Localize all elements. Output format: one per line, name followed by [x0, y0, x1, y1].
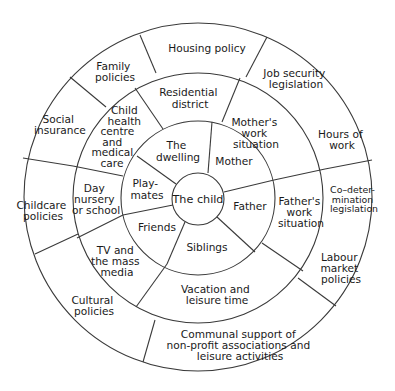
label-residential-district: Residential district	[159, 86, 221, 110]
label-dwelling: The dwelling	[156, 139, 200, 163]
label-day-nursery: Day nursery or school	[72, 182, 120, 216]
child-environment-diagram: The child The dwelling Mother Father Sib…	[0, 0, 395, 391]
label-communal-support: Communal support of non-profit associati…	[166, 328, 313, 362]
label-siblings: Siblings	[186, 241, 227, 253]
label-job-security: Job security legislation	[262, 67, 328, 90]
label-hours-of-work: Hours of work	[318, 128, 366, 151]
label-family-policies: Family policies	[95, 60, 135, 83]
label-vacation-leisure: Vacation and leisure time	[181, 283, 253, 306]
label-playmates: Play- mates	[130, 177, 163, 201]
label-housing-policy: Housing policy	[168, 42, 246, 54]
label-cultural-policies: Cultural policies	[71, 294, 116, 317]
label-father: Father	[233, 200, 267, 212]
label-mother: Mother	[215, 155, 253, 167]
label-tv-media: TV and the mass media	[91, 244, 143, 278]
label-childcare-policies: Childcare policies	[16, 199, 69, 222]
label-child-health: Child health centre and medical care	[91, 104, 144, 169]
label-fathers-work: Father's work situation	[278, 195, 324, 229]
label-labour-market: Labour market policies	[321, 251, 362, 285]
center-label: The child	[172, 193, 224, 206]
label-codetermination: Co–deter- mination legislation	[330, 184, 378, 214]
label-social-insurance: Social insurance	[34, 113, 86, 136]
label-friends: Friends	[138, 221, 176, 233]
